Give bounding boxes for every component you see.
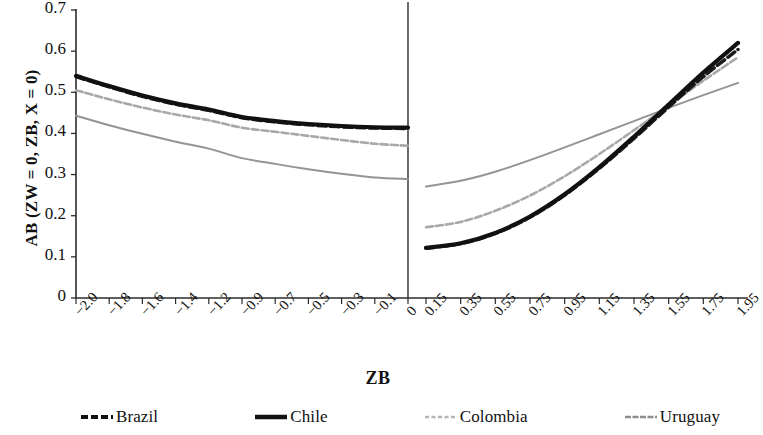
x-axis-title: ZB [0,368,756,389]
legend-item-colombia[interactable]: Colombia [424,407,528,427]
series-line-chile-left-panel [76,76,408,128]
series-line-uruguay-right-panel [426,83,738,187]
legend-item-uruguay[interactable]: Uruguay [624,407,720,427]
legend-swatch-uruguay-icon [624,412,658,422]
chart-legend: BrazilChileColombiaUruguay [80,404,720,430]
legend-swatch-chile-icon [254,412,288,422]
axes [71,2,748,304]
legend-swatch-colombia-icon [424,412,458,422]
data-series [76,43,738,248]
legend-item-brazil[interactable]: Brazil [80,407,158,427]
legend-label: Colombia [460,407,528,427]
legend-item-chile[interactable]: Chile [254,407,327,427]
legend-label: Chile [290,407,327,427]
legend-label: Uruguay [660,407,720,427]
legend-swatch-brazil-icon [80,412,114,422]
series-line-chile-right-panel [426,43,738,248]
legend-label: Brazil [116,407,158,427]
